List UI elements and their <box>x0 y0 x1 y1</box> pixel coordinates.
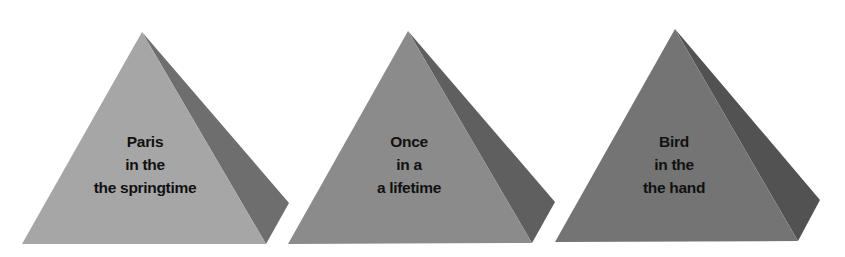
pyramid-2-line-3: a lifetime <box>329 176 489 199</box>
pyramid-2-label: Once in a a lifetime <box>329 130 489 199</box>
pyramid-3-line-1: Bird <box>594 130 754 153</box>
pyramid-3-line-3: the hand <box>594 176 754 199</box>
pyramid-1-label: Paris in the the springtime <box>65 130 225 199</box>
pyramid-3-line-2: in the <box>594 153 754 176</box>
pyramids-canvas <box>0 0 845 257</box>
pyramid-2-line-2: in a <box>329 153 489 176</box>
pyramid-1-line-1: Paris <box>65 130 225 153</box>
pyramid-1-line-2: in the <box>65 153 225 176</box>
pyramid-1-line-3: the springtime <box>65 176 225 199</box>
pyramid-3-label: Bird in the the hand <box>594 130 754 199</box>
pyramid-2-line-1: Once <box>329 130 489 153</box>
